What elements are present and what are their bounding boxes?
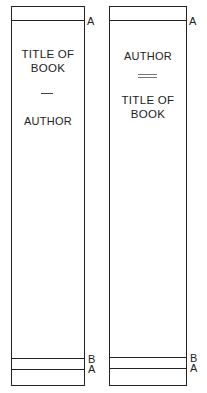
right-title-line2: BOOK — [109, 107, 187, 121]
right-top-line-a — [109, 20, 187, 21]
left-marker-top-a: A — [87, 16, 94, 27]
left-title-line2: BOOK — [11, 61, 85, 75]
right-separator-double-dash — [138, 74, 157, 78]
right-bottom-line-a — [109, 368, 187, 369]
right-title-line1: TITLE OF — [109, 93, 187, 107]
right-bottom-line-b — [109, 357, 187, 358]
left-bottom-line-a — [11, 369, 85, 370]
left-marker-bottom-a: A — [88, 364, 95, 375]
right-marker-bottom-a: A — [190, 363, 197, 374]
left-bottom-line-b — [11, 358, 85, 359]
right-marker-top-a: A — [189, 16, 196, 27]
left-title-line1: TITLE OF — [11, 47, 85, 61]
right-author: AUTHOR — [109, 49, 187, 63]
left-author: AUTHOR — [11, 114, 85, 128]
left-top-line-a — [11, 20, 85, 21]
right-book-spine — [109, 6, 187, 386]
left-separator-dash — [41, 93, 53, 94]
